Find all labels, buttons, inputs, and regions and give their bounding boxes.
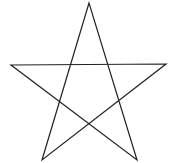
star-diagram <box>0 0 179 163</box>
pentagram-shape <box>11 3 166 160</box>
